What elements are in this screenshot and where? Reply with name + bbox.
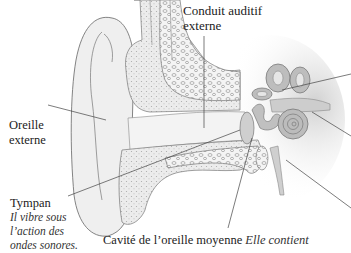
label-conduit-line1: Conduit auditif (183, 3, 262, 18)
label-conduit-auditif-externe: Conduit auditif externe (183, 3, 262, 33)
label-cavite-title: Cavité de l’oreille moyenne (103, 233, 242, 247)
cochlea (278, 109, 308, 139)
label-oreille-externe: Oreille externe (9, 118, 46, 148)
label-tympan-desc-3: ondes sonores. (10, 238, 78, 252)
middle-ear-bone-node (256, 146, 268, 170)
label-tympan-desc-2: l’action des (10, 224, 78, 238)
label-cavite-oreille-moyenne: Cavité de l’oreille moyenne Elle contien… (103, 233, 309, 248)
label-oreille-line2: externe (9, 133, 46, 148)
label-tympan-desc-1: Il vibre sous (10, 210, 78, 224)
label-conduit-line2: externe (183, 18, 262, 33)
label-cavite-desc: Elle contient (245, 233, 309, 247)
label-oreille-line1: Oreille (9, 118, 46, 133)
label-tympan-title: Tympan (10, 196, 78, 210)
label-tympan: Tympan Il vibre sous l’action des ondes … (10, 196, 78, 252)
